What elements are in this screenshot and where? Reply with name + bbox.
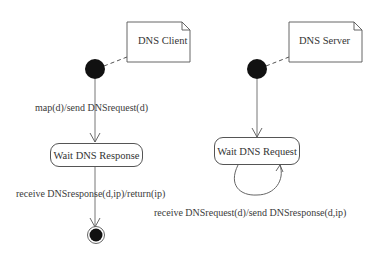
state-wait-dns-response: Wait DNS Response [50,143,143,167]
client-note-anchor [104,57,127,66]
client-initial-state [85,59,105,79]
client-init-transition-label: map(d)/send DNSrequest(d) [35,102,148,114]
server-self-transition-label: receive DNSrequest(d)/send DNSresponse(d… [154,207,346,219]
server-self-transition [234,165,281,195]
server-note-label: DNS Server [299,35,350,46]
server-note-anchor [266,57,289,66]
client-final-transition-label: receive DNSresponse(d,ip)/return(ip) [16,188,165,200]
server-initial-state [247,59,267,79]
final-state-core [90,229,103,242]
state-wait-dns-request: Wait DNS Request [214,137,300,165]
client-note-label: DNS Client [138,35,187,46]
arrowhead-icon [276,165,283,172]
